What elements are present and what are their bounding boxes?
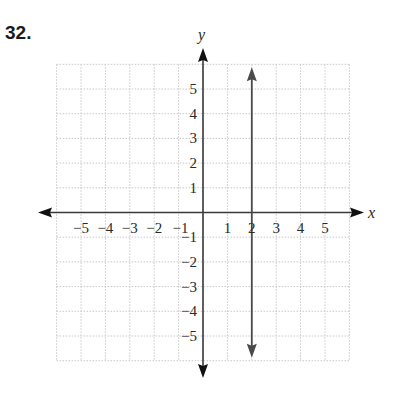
x-tick-label: −2 <box>146 220 162 236</box>
line-up-arrow-icon <box>247 67 257 81</box>
x-tick-label: 1 <box>224 220 232 236</box>
y-axis-down-arrow-icon <box>198 364 208 378</box>
y-tick-label: 5 <box>190 81 198 97</box>
coordinate-plane: xy −5−4−3−2−11234554321−1−2−3−4−5 <box>0 0 395 400</box>
x-tick-label: −5 <box>73 220 89 236</box>
y-tick-label: −4 <box>181 303 197 319</box>
x-tick-label: −4 <box>97 220 113 236</box>
y-tick-label: 4 <box>190 106 198 122</box>
x-axis-label: x <box>367 204 375 221</box>
x-tick-label: 5 <box>321 220 329 236</box>
axes: xy <box>38 26 375 378</box>
y-tick-label: 3 <box>190 130 198 146</box>
line-down-arrow-icon <box>247 344 257 358</box>
y-tick-label: −2 <box>181 254 197 270</box>
y-tick-label: −5 <box>181 328 197 344</box>
y-tick-label: −1 <box>181 229 197 245</box>
y-axis-label: y <box>196 26 206 44</box>
x-tick-label: 3 <box>272 220 280 236</box>
y-tick-label: −3 <box>181 279 197 295</box>
x-tick-label: 4 <box>297 220 305 236</box>
y-axis-up-arrow-icon <box>198 48 208 62</box>
x-axis-left-arrow-icon <box>38 208 52 218</box>
y-tick-label: 1 <box>190 180 198 196</box>
x-axis-right-arrow-icon <box>350 208 364 218</box>
x-tick-label: 2 <box>248 220 256 236</box>
x-tick-label: −3 <box>122 220 138 236</box>
y-tick-label: 2 <box>190 155 198 171</box>
